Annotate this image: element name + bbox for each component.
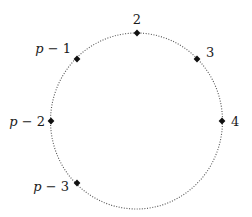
node-label: p − 3 (33, 179, 69, 194)
node-n2: 2 (133, 12, 141, 36)
cycle-diagram: 234p − 1p − 2p − 3 (0, 0, 252, 217)
node-label: 2 (133, 12, 141, 27)
diamond-marker-icon (219, 118, 226, 125)
node-n3: 3 (194, 45, 215, 62)
node-label: 4 (231, 114, 239, 129)
diamond-marker-icon (74, 180, 81, 187)
node-n4: 4 (219, 114, 240, 129)
diamond-marker-icon (134, 30, 141, 37)
diamond-marker-icon (48, 118, 55, 125)
node-label: 3 (206, 45, 214, 60)
node-label: p − 1 (35, 41, 71, 56)
node-label: p − 2 (9, 114, 45, 129)
node-nm2: p − 2 (9, 114, 54, 129)
nodes-layer: 234p − 1p − 2p − 3 (9, 12, 239, 194)
node-nm3: p − 3 (33, 179, 80, 194)
node-nm1: p − 1 (35, 41, 80, 62)
diamond-marker-icon (74, 56, 81, 63)
